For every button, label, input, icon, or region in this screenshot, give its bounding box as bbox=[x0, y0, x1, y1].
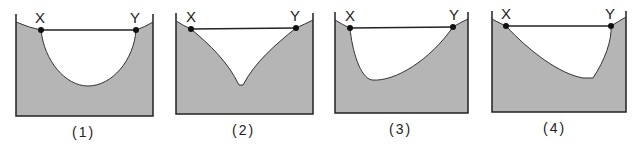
panel-4-label-y: Y bbox=[605, 5, 615, 22]
panel-1-label-x: X bbox=[35, 9, 45, 26]
panel-2-xy-line bbox=[191, 28, 296, 29]
panel-3-point-x bbox=[347, 25, 353, 31]
panel-1 bbox=[16, 14, 153, 116]
panel-4-ground bbox=[492, 17, 626, 112]
panel-1-point-x bbox=[38, 27, 44, 33]
panel-2-point-y bbox=[293, 25, 299, 31]
panel-2-label-y: Y bbox=[290, 7, 300, 24]
panel-1-point-y bbox=[133, 27, 139, 33]
panel-3 bbox=[335, 12, 468, 113]
panel-4 bbox=[492, 11, 626, 112]
panel-2 bbox=[176, 13, 313, 114]
panel-3-point-y bbox=[450, 24, 456, 30]
panel-3-caption: (3) bbox=[389, 121, 412, 137]
panel-2-point-x bbox=[188, 26, 194, 32]
panel-4-caption: (4) bbox=[543, 120, 566, 136]
panel-1-caption: (1) bbox=[72, 124, 95, 140]
panel-2-caption: (2) bbox=[232, 122, 255, 138]
panel-2-label-x: X bbox=[186, 8, 196, 25]
panel-1-ground bbox=[16, 22, 153, 116]
panel-4-point-y bbox=[608, 23, 614, 29]
panel-3-label-x: X bbox=[345, 7, 355, 24]
panel-3-xy-line bbox=[350, 27, 453, 28]
panel-3-label-y: Y bbox=[449, 6, 459, 23]
panel-1-label-y: Y bbox=[130, 9, 140, 26]
panel-4-label-x: X bbox=[501, 5, 511, 22]
panel-4-point-x bbox=[503, 23, 509, 29]
